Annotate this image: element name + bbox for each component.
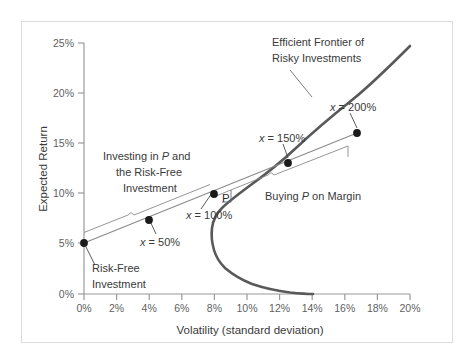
- x-tick-label-4: 4%: [142, 302, 157, 314]
- x-tick-label-10: 10%: [236, 302, 257, 314]
- x100-label-val: = 100%: [192, 209, 233, 221]
- tangency-point-label: P: [222, 192, 230, 204]
- frontier-label-leader: [290, 70, 312, 97]
- y-tick-label-10: 10%: [53, 187, 74, 199]
- right-segment-brace: [216, 146, 348, 196]
- y-tick-label-5: 5%: [59, 237, 74, 249]
- x200-leader: [350, 113, 357, 128]
- x-tick-label-8: 8%: [207, 302, 222, 314]
- marker-x150: [284, 159, 292, 167]
- invest-label-line1-c: and: [169, 150, 190, 162]
- x150-label-val: = 150%: [265, 132, 306, 144]
- x-tick-label-18: 18%: [367, 302, 388, 314]
- x-tick-label-20: 20%: [399, 302, 420, 314]
- y-tick-label-20: 20%: [53, 87, 74, 99]
- invest-label-line3: Investment: [123, 182, 177, 194]
- x200-label-val: = 200%: [336, 101, 377, 113]
- invest-label-line1-a: Investing in: [103, 150, 162, 162]
- x150-label: x = 150%: [258, 132, 305, 144]
- invest-label-line2: the Risk-Free: [116, 166, 182, 178]
- x-tick-label-2: 2%: [109, 302, 124, 314]
- marker-x50: [145, 216, 153, 224]
- x-axis-title: Volatility (standard deviation): [176, 324, 323, 336]
- y-axis: [78, 43, 84, 294]
- x-tick-label-0: 0%: [76, 302, 91, 314]
- x50-label-val: = 50%: [146, 236, 181, 248]
- invest-label-line1: Investing in P and: [103, 150, 190, 162]
- margin-label-a: Buying: [265, 190, 302, 202]
- x-tick-label-14: 14%: [302, 302, 323, 314]
- y-tick-label-0: 0%: [59, 288, 74, 300]
- frontier-label-line1: Efficient Frontier of: [272, 36, 365, 48]
- risk-free-label-line2: Investment: [92, 278, 146, 290]
- x-axis: [84, 294, 410, 300]
- x200-label: x = 200%: [329, 101, 376, 113]
- marker-x100-p: [210, 190, 218, 198]
- chart-canvas: 25% 20% 15% 10% 5% 0% 0% 2% 4% 6% 8% 10%…: [0, 0, 472, 361]
- y-tick-label-25: 25%: [53, 37, 74, 49]
- marker-risk-free: [80, 239, 88, 247]
- frontier-label-line2: Risky Investments: [272, 52, 362, 64]
- margin-label-c: on Margin: [309, 190, 361, 202]
- figure-container: 25% 20% 15% 10% 5% 0% 0% 2% 4% 6% 8% 10%…: [0, 0, 472, 361]
- x50-label: x = 50%: [139, 236, 180, 248]
- margin-label: Buying P on Margin: [265, 190, 361, 202]
- efficient-frontier-curve: [212, 46, 410, 294]
- y-axis-title: Expected Return: [37, 126, 49, 212]
- y-tick-label-15: 15%: [53, 137, 74, 149]
- x-tick-label-12: 12%: [269, 302, 290, 314]
- x-tick-label-6: 6%: [174, 302, 189, 314]
- x-tick-label-16: 16%: [334, 302, 355, 314]
- marker-x200: [353, 129, 361, 137]
- risk-free-label-line1: Risk-Free: [92, 262, 140, 274]
- x100-label: x = 100%: [185, 209, 232, 221]
